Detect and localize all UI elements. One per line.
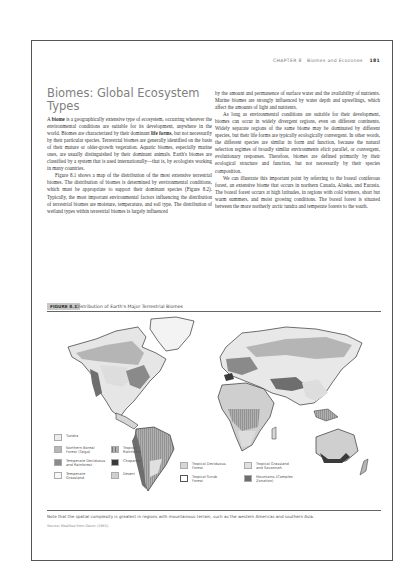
legend-item-tropical-deciduous: Tropical Deciduous Forest [180,462,228,471]
greenland [150,317,194,351]
legend-item-boreal-forest: Northern Boreal Forest (Taiga) [54,446,104,455]
legend-label: Tropical Scrub Forest [192,475,220,484]
legend-swatch [54,472,62,479]
legend-label: Tundra [66,434,78,438]
legend-item-temperate-grassland: Temperate Grassland [54,472,96,481]
figure-source: Source: Modified from Odum (1983). [47,524,109,528]
paragraph-continued: by the amount and permanence of surface … [215,90,380,111]
legend-swatch [111,472,119,479]
legend-label: Temperate Deciduous and Rainforest [66,459,106,468]
legend-item-tundra: Tundra [54,434,78,441]
legend-swatch [54,446,62,453]
figure-title: Distribution of Earth's Major Terrestria… [76,303,183,310]
legend-swatch [180,475,188,482]
paragraph-boreal-example: We can illustrate this important point b… [215,175,380,210]
chapter-title: Biomes and Ecozones [307,58,363,63]
figure-heading: FIGURE 8.1 Distribution of Earth's Major… [47,303,381,312]
legend-swatch [180,462,188,469]
paragraph-convergence: As long as environmental conditions are … [215,111,380,174]
legend-item-desert: Desert [111,472,135,479]
running-head: CHAPTER 8 Biomes and Ecozones 181 [273,58,380,63]
legend-swatch [111,459,119,466]
legend-swatch [244,462,252,469]
text-run: , but not necessarily by their particula… [47,130,212,171]
figure-label: FIGURE 8.1 [47,303,80,310]
legend-item-tropical-scrub: Tropical Scrub Forest [180,475,220,484]
right-column: by the amount and permanence of surface … [215,90,380,210]
legend-label: Mountains (Complex Zonation) [256,475,294,484]
legend-label: Tropical Grassland and Savannah [256,462,294,471]
term-life-forms: life forms [151,130,172,136]
legend-label: Temperate Grassland [66,472,96,481]
term-biome: biome [52,116,65,122]
legend-label: Desert [123,472,135,476]
legend-label: Northern Boreal Forest (Taiga) [66,446,104,455]
legend-swatch [244,475,252,482]
chapter-number: CHAPTER 8 [273,58,302,63]
legend-swatch [54,459,62,466]
legend-item-chaparral: Chaparral [111,459,141,466]
legend-swatch [111,446,119,453]
page-number: 181 [370,58,381,63]
legend-label: Tropical Rainforest [123,446,147,455]
legend-item-tropical-rainforest: Tropical Rainforest [111,446,147,455]
legend-label: Chaparral [123,459,141,463]
textbook-page: CHAPTER 8 Biomes and Ecozones 181 Biomes… [31,40,393,561]
paragraph-figure-ref: Figure 8.1 shows a map of the distributi… [47,172,212,214]
legend-item-temperate-deciduous: Temperate Deciduous and Rainforest [54,459,106,468]
section-title: Biomes: Global Ecosystem Types [47,87,217,112]
figure-note: Note that the spatial complexity is grea… [47,514,314,519]
legend-swatch [54,434,62,441]
legend-item-mountains: Mountains (Complex Zonation) [244,475,294,484]
figure-rule [47,510,381,511]
paragraph-biome-definition: A biome is a geographically extensive ty… [47,116,212,172]
left-column: A biome is a geographically extensive ty… [47,116,212,215]
legend-item-tropical-grassland: Tropical Grassland and Savannah [244,462,294,471]
legend-label: Tropical Deciduous Forest [192,462,228,471]
